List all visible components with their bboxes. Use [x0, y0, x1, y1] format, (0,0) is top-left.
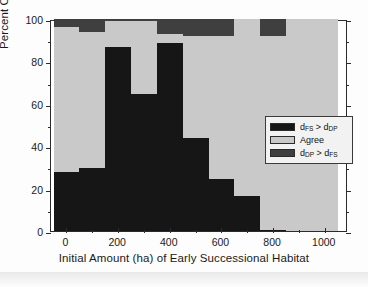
y-minor-tick-right-90 — [346, 42, 349, 43]
x-tick-label-800: 800 — [249, 236, 295, 248]
bar-segment-agree-200 — [105, 21, 131, 46]
y-tick-0 — [46, 233, 51, 234]
legend-swatch-ddp-gt-dfs — [270, 149, 295, 157]
y-tick-right-0 — [346, 233, 351, 234]
bar-segment-agree-0 — [54, 27, 80, 171]
bar-300ha — [131, 19, 157, 231]
bar-segment-d-dp-d-fs-500 — [183, 19, 209, 36]
x-minor-tick-500 — [196, 230, 197, 233]
bar-segment-agree-300 — [131, 21, 157, 94]
bar-segment-d-dp-d-fs-300 — [131, 19, 157, 21]
bar-600ha — [209, 19, 235, 231]
y-minor-tick-right-10 — [346, 212, 349, 213]
bar-0ha — [54, 19, 80, 231]
bar-segment-d-fs-d-dp-400 — [157, 43, 183, 231]
x-minor-tick-100 — [92, 230, 93, 233]
bar-segment-d-dp-d-fs-600 — [209, 19, 235, 36]
x-tick-1000 — [325, 228, 326, 233]
legend-item-agree: Agree — [270, 134, 348, 146]
bar-segment-d-fs-d-dp-500 — [183, 138, 209, 231]
x-axis-title: Initial Amount (ha) of Early Successiona… — [0, 252, 368, 264]
y-tick-100 — [46, 21, 51, 22]
bar-400ha — [157, 19, 183, 231]
x-tick-0 — [66, 228, 67, 233]
y-tick-right-80 — [346, 63, 351, 64]
y-tick-label-20: 20 — [13, 184, 43, 196]
bar-100ha — [79, 19, 105, 231]
x-tick-200 — [118, 228, 119, 233]
bar-segment-agree-700 — [234, 19, 260, 196]
bar-segment-d-dp-d-fs-100 — [79, 19, 105, 32]
bar-segment-d-fs-d-dp-600 — [209, 179, 235, 231]
y-tick-label-40: 40 — [13, 141, 43, 153]
x-tick-400 — [170, 228, 171, 233]
bar-segment-d-fs-d-dp-100 — [79, 168, 105, 231]
y-tick-right-100 — [346, 21, 351, 22]
figure-chart-panel: Percent Occurrence Initial Amount (ha) o… — [0, 0, 368, 287]
x-tick-800 — [273, 228, 274, 233]
y-tick-label-100: 100 — [13, 14, 43, 26]
x-tick-label-200: 200 — [94, 236, 140, 248]
bar-segment-d-dp-d-fs-200 — [105, 19, 131, 21]
y-minor-tick-30 — [48, 169, 51, 170]
y-tick-80 — [46, 63, 51, 64]
bar-500ha — [183, 19, 209, 231]
legend-swatch-dfs-gt-ddp — [270, 123, 295, 131]
legend-label-agree: Agree — [300, 136, 324, 145]
y-tick-40 — [46, 148, 51, 149]
chart-legend: dFS > dDP Agree dDP > dFS — [265, 116, 353, 164]
y-tick-right-60 — [346, 106, 351, 107]
x-minor-tick-700 — [247, 230, 248, 233]
bar-segment-d-dp-d-fs-0 — [54, 19, 80, 27]
x-tick-600 — [221, 228, 222, 233]
y-minor-tick-10 — [48, 212, 51, 213]
x-tick-label-600: 600 — [197, 236, 243, 248]
bar-segment-agree-100 — [79, 32, 105, 169]
x-tick-label-1000: 1000 — [301, 236, 347, 248]
x-minor-tick-300 — [144, 230, 145, 233]
bar-segment-d-fs-d-dp-300 — [131, 94, 157, 231]
legend-label-dfs-gt-ddp: dFS > dDP — [300, 123, 338, 132]
legend-item-dfs-gt-ddp: dFS > dDP — [270, 121, 348, 133]
bar-segment-d-fs-d-dp-700 — [234, 196, 260, 231]
bar-segment-d-fs-d-dp-200 — [105, 47, 131, 231]
y-tick-label-60: 60 — [13, 99, 43, 111]
bar-segment-agree-500 — [183, 36, 209, 138]
x-tick-label-0: 0 — [42, 236, 88, 248]
y-tick-label-0: 0 — [13, 226, 43, 238]
bar-segment-d-fs-d-dp-0 — [54, 172, 80, 231]
bar-segment-agree-600 — [209, 36, 235, 179]
legend-label-ddp-gt-dfs: dDP > dFS — [300, 149, 338, 158]
bar-segment-agree-400 — [157, 34, 183, 44]
y-minor-tick-70 — [48, 85, 51, 86]
x-minor-tick-900 — [299, 230, 300, 233]
y-tick-label-80: 80 — [13, 56, 43, 68]
bar-segment-d-dp-d-fs-400 — [157, 19, 183, 34]
legend-swatch-agree — [270, 136, 295, 144]
y-tick-20 — [46, 191, 51, 192]
bar-200ha — [105, 19, 131, 231]
legend-item-ddp-gt-dfs: dDP > dFS — [270, 147, 348, 159]
x-tick-label-400: 400 — [146, 236, 192, 248]
bar-700ha — [234, 19, 260, 231]
y-axis-title: Percent Occurrence — [0, 0, 10, 62]
y-minor-tick-right-30 — [346, 169, 349, 170]
scan-artifact — [0, 272, 368, 287]
y-minor-tick-90 — [48, 42, 51, 43]
y-minor-tick-50 — [48, 127, 51, 128]
y-minor-tick-right-70 — [346, 85, 349, 86]
bar-segment-d-dp-d-fs-800 — [260, 19, 286, 36]
y-tick-right-20 — [346, 191, 351, 192]
y-tick-60 — [46, 106, 51, 107]
